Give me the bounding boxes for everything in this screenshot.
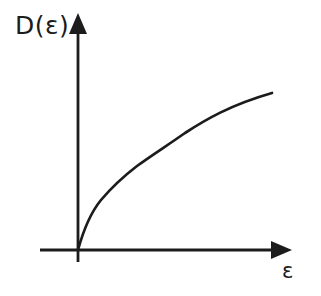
density-of-states-curve [78,93,272,250]
y-axis-arrowhead [69,13,87,34]
x-axis-label: ε [282,261,293,282]
figure-density-of-states: D(ε) ε [0,0,321,296]
x-axis-arrowhead [271,241,292,259]
y-axis-label: D(ε) [15,13,69,38]
plot-canvas [0,0,321,296]
